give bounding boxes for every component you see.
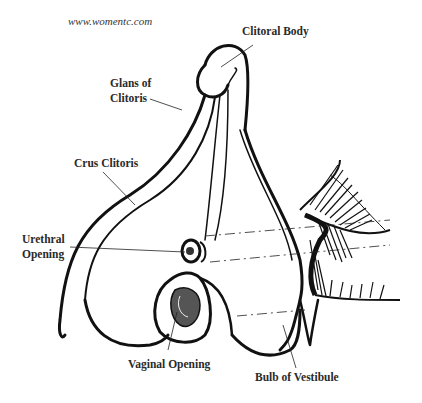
- watermark: www.womentc.com: [68, 15, 152, 27]
- label-crus-clitoris: Crus Clitoris: [74, 156, 138, 171]
- label-glans-line1: Glans of: [110, 76, 151, 91]
- label-glans-line2: Clitoris: [110, 91, 151, 106]
- label-bulb-of-vestibule: Bulb of Vestibule: [255, 370, 339, 385]
- label-glans-of-clitoris: Glans of Clitoris: [110, 76, 151, 106]
- urethral-opening-shape: [182, 240, 205, 262]
- label-urethral-opening: Urethral Opening: [22, 232, 65, 262]
- label-bulb-text: Bulb of Vestibule: [255, 371, 339, 383]
- anatomy-diagram: www.womentc.com Clitoral Body Glans of C…: [0, 0, 422, 403]
- label-urethral-line1: Urethral: [22, 232, 65, 247]
- label-vaginal-opening: Vaginal Opening: [128, 357, 210, 372]
- label-urethral-line2: Opening: [22, 247, 65, 262]
- label-clitoral-body: Clitoral Body: [242, 24, 309, 39]
- label-clitoral-body-text: Clitoral Body: [242, 25, 309, 37]
- label-crus-text: Crus Clitoris: [74, 157, 138, 169]
- label-vaginal-text: Vaginal Opening: [128, 358, 210, 370]
- surrounding-tissue-hatching: [300, 160, 400, 300]
- anatomy-illustration: [0, 0, 422, 403]
- vaginal-opening-shape: [155, 273, 232, 342]
